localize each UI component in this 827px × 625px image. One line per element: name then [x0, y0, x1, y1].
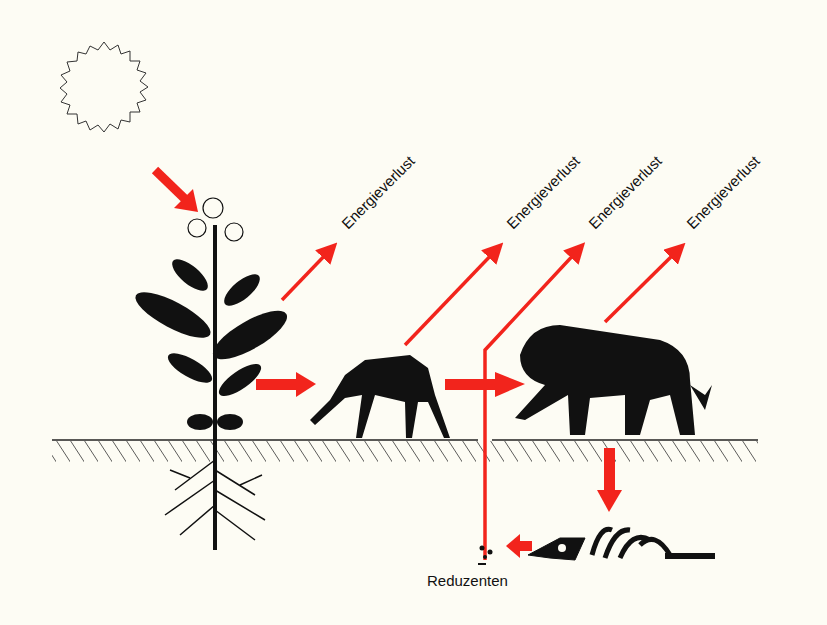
reducers-label: Reduzenten [427, 572, 508, 589]
sun-icon [60, 42, 148, 132]
energy-loss-arrow-icon [282, 250, 330, 300]
energy-loss-arrow-icon [605, 250, 678, 322]
deer-icon [310, 355, 450, 438]
carcass-bones-icon [528, 529, 715, 560]
sun-to-plant-arrow-icon [155, 170, 198, 212]
plant-to-deer-arrow-icon [256, 372, 316, 397]
plant-icon [130, 198, 294, 550]
diagram-canvas [0, 0, 827, 625]
ground-line [52, 440, 758, 471]
food-chain-diagram: Energieverlust Energieverlust Energiever… [0, 0, 827, 625]
energy-loss-arrow-icon [405, 250, 496, 345]
lion-icon [515, 325, 712, 435]
